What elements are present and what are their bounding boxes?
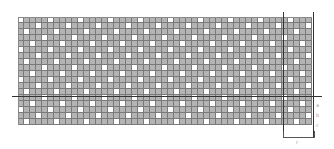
side-label-a: a [316, 102, 319, 108]
side-label-c: c [316, 122, 319, 128]
bracket-label: r [296, 139, 298, 145]
weave-grid [18, 17, 312, 125]
repeat-bracket [283, 131, 315, 138]
horizontal-reference-line [12, 96, 322, 97]
side-label-b: b [316, 112, 319, 118]
grid-cell [306, 119, 312, 125]
vertical-reference-line-left [283, 12, 284, 137]
vertical-reference-line-right [313, 12, 314, 137]
